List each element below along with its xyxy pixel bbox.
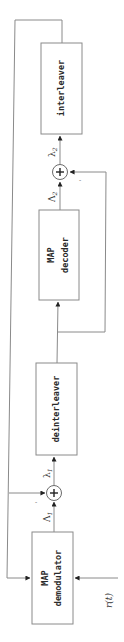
lambda2-label: λ2 (47, 147, 58, 157)
adder2 (53, 165, 68, 180)
Lambda2-label: Λ2 (47, 192, 58, 204)
map-decoder-line1: MAP (46, 247, 56, 262)
map-demodulator-line2: demodulator (53, 550, 63, 606)
map-decoder-line2: decoder (60, 237, 70, 273)
map-demodulator-block: MAP demodulator (32, 532, 73, 624)
adder2-minus-mark: - (79, 176, 81, 183)
interleaver-label: interleaver (56, 60, 66, 116)
adder1-minus-mark: - (35, 498, 37, 505)
interleaver-block: interleaver (41, 43, 82, 134)
input-signal-label: r(t) (104, 593, 114, 608)
deinterleaver-block: deinterleaver (36, 363, 77, 455)
deinterleaver-label: deinterleaver (51, 376, 61, 443)
map-decoder-block: MAP decoder (39, 210, 79, 300)
turbo-demod-decode-diagram: r(t) MAP demodulator Λ1 - λ1 deinterleav… (0, 0, 124, 642)
map-demodulator-line1: MAP (40, 570, 50, 585)
adder1 (47, 486, 62, 501)
Lambda1-label: Λ1 (42, 512, 53, 523)
lambda1-label: λ1 (42, 468, 53, 478)
